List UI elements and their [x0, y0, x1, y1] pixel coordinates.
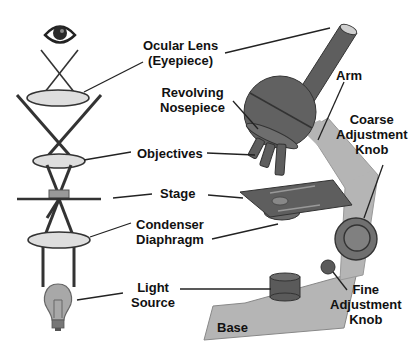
label-coarse-adjustment-knob: Coarse Adjustment Knob	[336, 112, 408, 157]
light-bulb-icon	[45, 284, 72, 331]
label-objectives: Objectives	[137, 146, 203, 161]
label-line: Nosepiece	[160, 100, 225, 115]
label-line: Coarse	[336, 112, 408, 127]
label-arm: Arm	[336, 68, 362, 83]
label-line: Objectives	[137, 146, 203, 161]
label-line: Light	[131, 280, 175, 295]
specimen-slide	[49, 190, 69, 198]
label-condenser-diaphragm: Condenser Diaphragm	[136, 217, 204, 247]
label-line: Revolving	[160, 85, 225, 100]
label-base: Base	[217, 320, 248, 335]
microscope-diagram: Ocular Lens (Eyepiece) Revolving Nosepie…	[0, 0, 416, 358]
label-ocular-lens: Ocular Lens (Eyepiece)	[143, 38, 218, 68]
label-line: Knob	[330, 312, 402, 327]
label-line: Knob	[336, 142, 408, 157]
ocular-lens-schematic	[27, 90, 89, 106]
label-line: Ocular Lens	[143, 38, 218, 53]
fine-knob	[321, 260, 335, 274]
label-line: Source	[131, 295, 175, 310]
stage-part	[240, 180, 352, 217]
illuminator	[270, 273, 300, 301]
objective-lens-schematic	[33, 154, 85, 168]
label-line: Adjustment	[330, 297, 402, 312]
coarse-knob	[335, 218, 377, 260]
label-line: Arm	[336, 68, 362, 83]
label-revolving-nosepiece: Revolving Nosepiece	[160, 85, 225, 115]
label-line: Fine	[330, 282, 402, 297]
label-line: Base	[217, 320, 248, 335]
label-stage: Stage	[160, 186, 195, 201]
label-line: Stage	[160, 186, 195, 201]
eye-icon	[45, 26, 75, 43]
label-line: Condenser	[136, 217, 204, 232]
label-line: (Eyepiece)	[143, 53, 218, 68]
condenser-lens-schematic	[28, 232, 90, 248]
label-fine-adjustment-knob: Fine Adjustment Knob	[330, 282, 402, 327]
label-light-source: Light Source	[131, 280, 175, 310]
label-line: Diaphragm	[136, 232, 204, 247]
label-line: Adjustment	[336, 127, 408, 142]
light-rays-source	[43, 247, 74, 287]
